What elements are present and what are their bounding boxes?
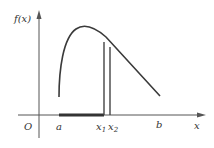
y-axis-arrow-icon — [37, 10, 42, 19]
label-x1-subscript: 1 — [102, 126, 106, 134]
label-b: b — [156, 119, 162, 130]
x-axis-label: x — [194, 120, 200, 131]
label-x1: x1 — [96, 121, 106, 134]
label-x2: x2 — [108, 121, 119, 134]
function-graph: f(x) O a x1 x2 b x — [0, 0, 214, 148]
label-a: a — [56, 121, 62, 132]
label-x2-subscript: 2 — [113, 126, 119, 134]
x-axis-arrow-icon — [197, 113, 206, 118]
origin-label: O — [24, 121, 32, 132]
y-axis-label: f(x) — [13, 13, 31, 24]
